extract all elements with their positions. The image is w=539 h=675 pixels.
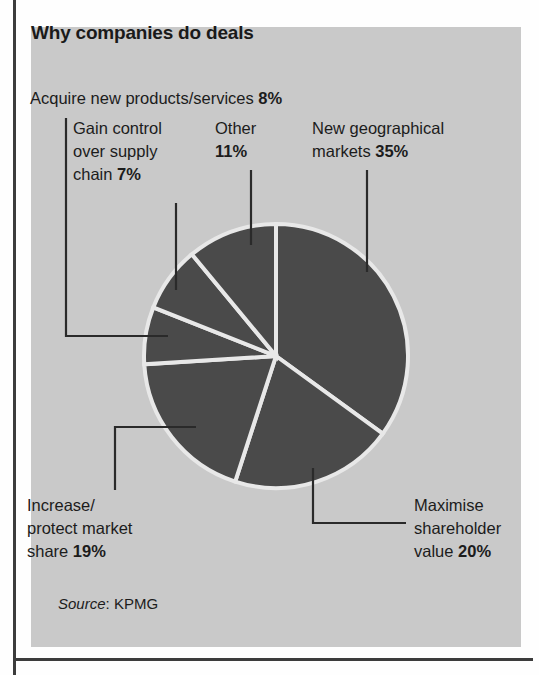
- slice-label-other: Other 11%: [215, 117, 256, 163]
- slice-label-maximise-line3: value: [414, 542, 458, 560]
- slice-value-gain: 7%: [117, 165, 141, 183]
- slice-label-maximise-line1: Maximise: [414, 494, 501, 517]
- slice-label-newgeo-line2: markets: [312, 142, 375, 160]
- slice-label-acquire: Acquire new products/services 8%: [30, 87, 282, 110]
- slice-value-acquire: 8%: [258, 89, 282, 107]
- slice-label-newgeo: New geographical markets 35%: [312, 117, 444, 163]
- source-label: Source: [58, 595, 106, 612]
- source-value: KPMG: [114, 595, 158, 612]
- slice-label-other-line1: Other: [215, 117, 256, 140]
- slice-label-gain: Gain control over supply chain 7%: [73, 117, 162, 186]
- slice-label-gain-line2: over supply: [73, 140, 162, 163]
- source-note: Source: KPMG: [58, 595, 158, 612]
- slice-value-increase: 19%: [73, 542, 106, 560]
- slice-label-maximise-line2: shareholder: [414, 517, 501, 540]
- slice-label-gain-line3: chain: [73, 165, 117, 183]
- slice-label-acquire-text: Acquire new products/services: [30, 89, 258, 107]
- page-canvas: Why companies do deals: [0, 0, 539, 675]
- slice-label-maximise: Maximise shareholder value 20%: [414, 494, 501, 563]
- slice-value-maximise: 20%: [458, 542, 491, 560]
- slice-label-increase-line1: Increase/: [27, 494, 132, 517]
- slice-label-gain-line1: Gain control: [73, 117, 162, 140]
- slice-value-other: 11%: [215, 142, 247, 160]
- slice-label-increase-line3: share: [27, 542, 73, 560]
- slice-label-newgeo-line1: New geographical: [312, 117, 444, 140]
- source-separator: :: [106, 595, 114, 612]
- slice-label-increase-line2: protect market: [27, 517, 132, 540]
- slice-value-newgeo: 35%: [375, 142, 408, 160]
- slice-label-increase: Increase/ protect market share 19%: [27, 494, 132, 563]
- pie-slices: [144, 224, 408, 488]
